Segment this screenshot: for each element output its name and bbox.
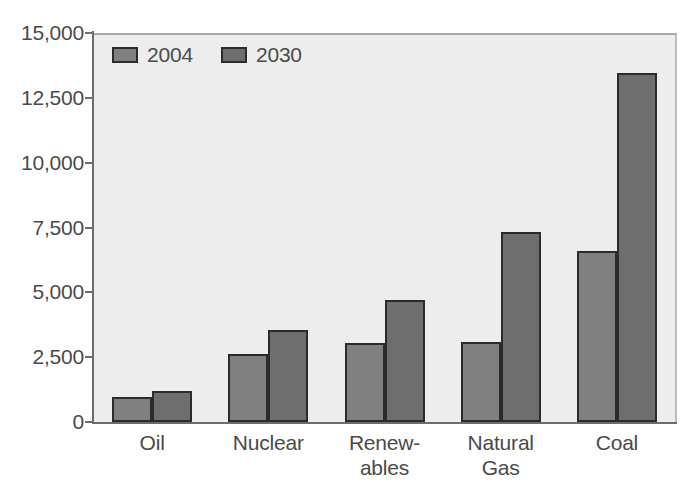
bar-chart: 02,5005,0007,50010,00012,50015,000 20042… [0,0,697,493]
bar-coal-2030 [617,73,657,422]
x-axis-tick-label-renewables: Renew- ables [326,430,442,480]
legend-item-2004[interactable]: 2004 [112,44,193,65]
legend-item-2030[interactable]: 2030 [221,44,302,65]
y-axis-tick-label: 7,500 [6,217,84,238]
y-axis-tick-label: 2,500 [6,346,84,367]
y-axis-tick-label: 15,000 [6,22,84,43]
bar-nuclear-2004 [228,354,268,422]
legend-label: 2030 [256,44,302,65]
y-axis-labels: 02,5005,0007,50010,00012,50015,000 [0,0,84,493]
legend-swatch-icon [221,47,247,63]
x-axis-tick-label-coal: Coal [559,430,675,455]
bar-renewables-2030 [385,300,425,422]
chart-legend: 20042030 [112,44,302,65]
x-axis-line [92,422,677,424]
y-axis-tick-label: 12,500 [6,87,84,108]
y-axis-tick-label: 0 [6,411,84,432]
x-axis-tick-label-nuclear: Nuclear [210,430,326,455]
legend-swatch-icon [112,47,138,63]
legend-label: 2004 [147,44,193,65]
bar-natural-gas-2030 [501,232,541,422]
bar-renewables-2004 [345,343,385,422]
bar-oil-2030 [152,391,192,422]
bar-natural-gas-2004 [461,342,501,422]
bar-coal-2004 [577,251,617,422]
bar-oil-2004 [112,397,152,422]
y-axis-tick-label: 10,000 [6,152,84,173]
x-axis-labels: OilNuclearRenew- ablesNatural GasCoal [94,430,675,492]
x-axis-tick-label-oil: Oil [94,430,210,455]
bars-layer [94,33,675,422]
y-axis-tick-label: 5,000 [6,281,84,302]
x-axis-tick-label-natural-gas: Natural Gas [443,430,559,480]
bar-nuclear-2030 [268,330,308,422]
